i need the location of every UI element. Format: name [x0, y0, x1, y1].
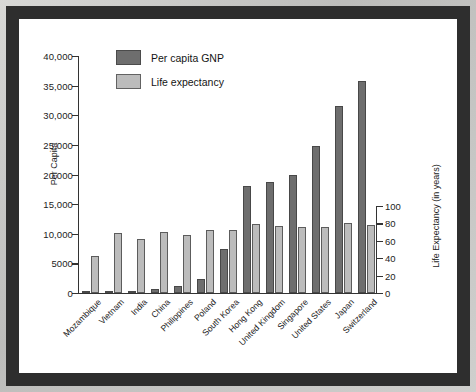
y-tick-right [377, 206, 383, 207]
bar-group [358, 56, 376, 293]
legend-label: Per capita GNP [151, 52, 224, 64]
x-axis-line [78, 293, 377, 294]
y-tick-label-left: 0 [68, 288, 73, 299]
bar-life-expectancy [298, 227, 306, 293]
bar-per-capita-gnp [289, 175, 297, 294]
bar-group [289, 56, 307, 293]
y-tick-label-left: 30,000 [43, 110, 73, 121]
plot-area: 0500010,00015,00020,00025,00030,00035,00… [19, 19, 457, 373]
y-tick-label-right: 100 [385, 201, 401, 212]
bar-per-capita-gnp [197, 279, 205, 293]
bar-life-expectancy [183, 235, 191, 293]
bar-life-expectancy [367, 225, 375, 293]
legend-swatch [116, 74, 141, 89]
bar-group [335, 56, 353, 293]
y-tick-label-right: 60 [385, 235, 396, 246]
bar-group [266, 56, 284, 293]
bar-per-capita-gnp [335, 106, 343, 293]
bar-group [243, 56, 261, 293]
y-tick-right [377, 276, 383, 277]
y-tick-label-left: 5000 [51, 258, 73, 269]
bar-life-expectancy [160, 232, 168, 293]
bar-per-capita-gnp [312, 146, 320, 293]
legend-item: Life expectancy [116, 74, 224, 89]
chart-canvas: 0500010,00015,00020,00025,00030,00035,00… [19, 19, 457, 373]
bar-life-expectancy [252, 224, 260, 293]
bar-per-capita-gnp [151, 289, 159, 293]
x-axis-label: India [128, 297, 148, 317]
bar-per-capita-gnp [82, 291, 90, 293]
y-tick-label-left: 10,000 [43, 228, 73, 239]
chart-legend: Per capita GNPLife expectancy [116, 50, 224, 98]
y-tick-label-right: 40 [385, 253, 396, 264]
y-axis-left-title: Per Capita [49, 124, 59, 204]
bar-per-capita-gnp [174, 286, 182, 293]
x-axis-category-labels: MozambiqueVietnamIndiaChinaPhilippinesPo… [78, 297, 398, 373]
bar-per-capita-gnp [128, 291, 136, 293]
bar-per-capita-gnp [220, 249, 228, 293]
bar-group [312, 56, 330, 293]
bar-life-expectancy [206, 230, 214, 293]
legend-item: Per capita GNP [116, 50, 224, 65]
frame-inner-bevel: 0500010,00015,00020,00025,00030,00035,00… [6, 6, 470, 386]
y-tick-label-left: 40,000 [43, 51, 73, 62]
bar-life-expectancy [321, 227, 329, 293]
bar-life-expectancy [114, 233, 122, 293]
bar-life-expectancy [91, 256, 99, 293]
bar-life-expectancy [344, 223, 352, 293]
y-tick-right [377, 223, 383, 224]
y-axis-right-title: Life Expectancy (in years) [431, 151, 441, 281]
legend-label: Life expectancy [151, 76, 224, 88]
y-tick-right [377, 293, 383, 294]
bar-per-capita-gnp [266, 182, 274, 293]
bar-per-capita-gnp [358, 81, 366, 293]
bar-per-capita-gnp [105, 291, 113, 293]
y-tick-label-right: 20 [385, 270, 396, 281]
y-tick-right [377, 258, 383, 259]
legend-swatch [116, 50, 141, 65]
y-tick-label-left: 35,000 [43, 80, 73, 91]
bar-per-capita-gnp [243, 186, 251, 293]
bar-life-expectancy [229, 230, 237, 293]
bar-life-expectancy [275, 226, 283, 293]
picture-frame: 0500010,00015,00020,00025,00030,00035,00… [0, 0, 476, 392]
bar-life-expectancy [137, 239, 145, 293]
y-tick-label-right: 80 [385, 218, 396, 229]
bar-group [82, 56, 100, 293]
y-tick-right [377, 241, 383, 242]
